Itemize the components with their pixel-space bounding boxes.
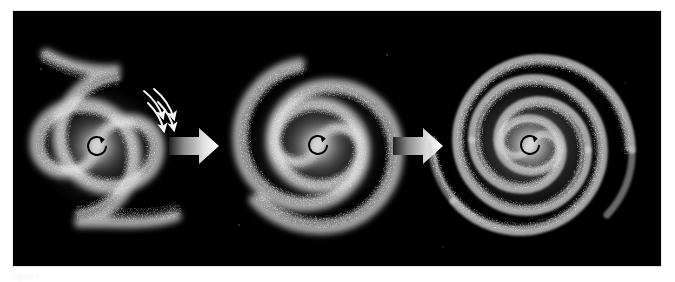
galaxy-evolution-image-panel [13, 11, 661, 266]
stage-3-bulge [500, 115, 560, 175]
figure-caption: Figure 1 [13, 272, 661, 281]
stage-1-bulge [71, 120, 123, 172]
stage-2-bulge [290, 117, 346, 173]
figure-caption-strip: Figure 1 [13, 272, 661, 282]
galaxy-evolution-canvas [13, 11, 661, 266]
figure-root: Figure 1 [0, 0, 675, 282]
